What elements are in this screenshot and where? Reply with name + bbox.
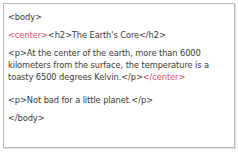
center-open-tag: <center> [8, 30, 48, 40]
h2-heading-code: <h2>The Earth's Core</h2> [48, 30, 166, 40]
paragraph-2-code: <p>Not bad for a little planet.</p> [8, 95, 153, 105]
center-close-tag: </center> [143, 72, 186, 82]
center-h2-line: <center><h2>The Earth's Core</h2> [8, 30, 166, 40]
p1-line-2: kilometers from the surface, the tempera… [8, 59, 209, 71]
body-close-tag: </body> [8, 113, 45, 123]
paragraph-1-code: <p>At the center of the earth, more than… [8, 47, 209, 83]
body-open-line: <body> [8, 12, 42, 22]
body-close-line: </body> [8, 113, 45, 123]
code-listing-box: <body> <center><h2>The Earth's Core</h2>… [3, 3, 235, 148]
p1-line-3-text: toasty 6500 degrees Kelvin.</p> [8, 72, 143, 82]
p1-line-3: toasty 6500 degrees Kelvin.</p></center> [8, 71, 209, 83]
p1-line-1: <p>At the center of the earth, more than… [8, 47, 209, 59]
body-open-tag: <body> [8, 12, 42, 22]
p2-text: <p>Not bad for a little planet.</p> [8, 95, 153, 105]
